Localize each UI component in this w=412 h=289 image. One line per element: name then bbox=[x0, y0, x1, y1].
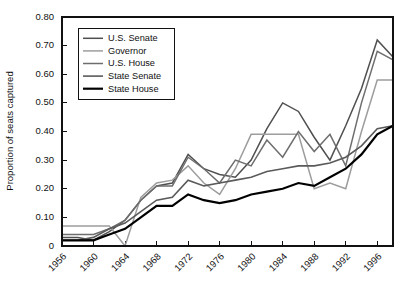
x-tick-label: 1996 bbox=[361, 251, 384, 274]
y-tick-label: 0.60 bbox=[36, 68, 55, 79]
y-tick-label: 0.20 bbox=[36, 182, 55, 193]
y-tick-label: 0 bbox=[49, 240, 54, 251]
x-tick-label: 1956 bbox=[46, 251, 69, 274]
series-line-governor bbox=[62, 80, 393, 246]
y-tick-label: 0.70 bbox=[36, 39, 55, 50]
x-tick-label: 1964 bbox=[109, 251, 132, 274]
y-tick-label: 0.50 bbox=[36, 96, 55, 107]
x-tick-label: 1988 bbox=[298, 251, 321, 274]
x-tick-label: 1972 bbox=[172, 251, 195, 274]
legend-label-governor: Governor bbox=[108, 46, 146, 56]
y-axis-title-label: Proportion of seats captured bbox=[4, 71, 15, 190]
x-tick-label: 1960 bbox=[77, 251, 100, 274]
chart-container: Proportion of seats captured 00.100.200.… bbox=[0, 0, 412, 289]
legend-label-state-senate: State Senate bbox=[108, 71, 161, 81]
y-tick-label: 0.80 bbox=[36, 11, 55, 22]
legend-label-state-house: State House bbox=[108, 84, 159, 94]
legend-label-u-s-house: U.S. House bbox=[108, 58, 155, 68]
y-tick-label: 0.30 bbox=[36, 154, 55, 165]
y-tick-label: 0.40 bbox=[36, 125, 55, 136]
y-axis-title: Proportion of seats captured bbox=[4, 71, 15, 190]
x-axis-tick-labels: 1956196019641968197219761980198419881992… bbox=[46, 251, 384, 274]
chart-legend: U.S. SenateGovernorU.S. HouseState Senat… bbox=[78, 28, 174, 99]
x-tick-label: 1976 bbox=[203, 251, 226, 274]
x-tick-label: 1980 bbox=[235, 251, 258, 274]
x-tick-label: 1984 bbox=[266, 251, 289, 274]
legend-label-u-s-senate: U.S. Senate bbox=[108, 33, 158, 43]
y-tick-label: 0.10 bbox=[36, 211, 55, 222]
x-tick-label: 1992 bbox=[329, 251, 352, 274]
x-tick-label: 1968 bbox=[140, 251, 163, 274]
line-chart: Proportion of seats captured 00.100.200.… bbox=[0, 0, 412, 289]
y-axis-tick-labels: 00.100.200.300.400.500.600.700.80 bbox=[36, 11, 55, 251]
